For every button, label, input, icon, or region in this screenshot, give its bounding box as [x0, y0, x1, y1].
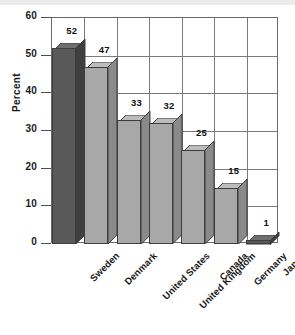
y-tick-mark [41, 130, 51, 131]
y-tick-mark [41, 55, 51, 56]
bar-value-label: 47 [84, 44, 124, 55]
bar-japan [246, 231, 279, 244]
bar-value-label: 15 [214, 165, 254, 176]
x-tick-label: Denmark [122, 250, 159, 287]
y-axis-title: Percent [11, 73, 22, 112]
bar-value-label: 25 [181, 127, 221, 138]
bar-united-kingdom [149, 114, 182, 244]
bar-front-face [117, 120, 141, 244]
bar-front-face [214, 188, 238, 245]
y-tick-mark [41, 243, 51, 244]
bar-germany [214, 179, 247, 245]
gridline-horizontal [52, 56, 277, 57]
bar-front-face [181, 150, 205, 244]
y-tick-mark [41, 168, 51, 169]
y-tick-mark [41, 92, 51, 93]
y-tick-label: 30 [25, 123, 37, 134]
bar-chart: Percent 0102030405060 SwedenDenmarkUnite… [0, 0, 295, 335]
bar-canada [181, 141, 214, 244]
y-tick-label: 60 [25, 10, 37, 21]
y-tick-label: 20 [25, 161, 37, 172]
bar-side-face [270, 231, 279, 244]
x-tick-label: Sweden [88, 250, 122, 284]
y-tick-label: 50 [25, 48, 37, 59]
bar-front-face [52, 48, 76, 244]
bar-value-label: 32 [149, 100, 189, 111]
bar-sweden [52, 39, 85, 244]
bar-denmark [84, 58, 117, 244]
bar-front-face [149, 123, 173, 244]
y-tick-mark [41, 205, 51, 206]
bar-front-face [246, 240, 270, 244]
bar-value-label: 1 [246, 217, 286, 228]
scan-edge-strip [0, 0, 295, 5]
y-tick-label: 10 [25, 198, 37, 209]
bar-united-states [117, 111, 150, 244]
y-tick-label: 0 [31, 236, 37, 247]
bar-front-face [84, 67, 108, 244]
bar-value-label: 52 [52, 25, 92, 36]
y-tick-mark [41, 17, 51, 18]
y-tick-label: 40 [25, 85, 37, 96]
